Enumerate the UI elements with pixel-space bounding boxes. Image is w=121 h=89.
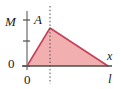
math-figure: M A x l 0 0 xyxy=(0,0,121,89)
origin-label-horizontal: 0 xyxy=(24,73,31,86)
figure-canvas xyxy=(0,0,121,89)
origin-label-vertical: 0 xyxy=(8,57,15,70)
axis-label-m: M xyxy=(5,15,16,28)
axis-label-x: x xyxy=(107,50,112,62)
peak-label-a: A xyxy=(34,13,42,26)
segment-length-label-l: l xyxy=(108,72,112,85)
